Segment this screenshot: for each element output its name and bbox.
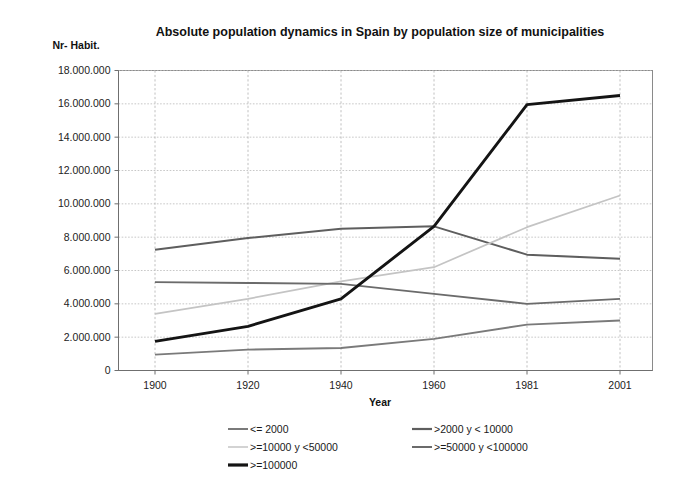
y-tick-label: 8.000.000 <box>64 231 111 243</box>
legend-label: >2000 y < 10000 <box>434 423 513 435</box>
y-tick-label: 12.000.000 <box>58 164 111 176</box>
population-dynamics-line-chart: Absolute population dynamics in Spain by… <box>0 0 682 488</box>
plot-area-frame <box>119 71 653 371</box>
y-tick-label: 0 <box>105 364 111 376</box>
legend-label: >=50000 y <100000 <box>434 441 528 453</box>
y-tick-label: 14.000.000 <box>58 131 111 143</box>
x-tick-label: 1960 <box>422 379 446 391</box>
x-tick-label: 2001 <box>608 379 632 391</box>
x-tick-label: 1920 <box>236 379 260 391</box>
y-tick-label: 2.000.000 <box>64 331 111 343</box>
x-tick-label: 1940 <box>329 379 353 391</box>
x-tick-label: 1900 <box>143 379 167 391</box>
legend-label: >=100000 <box>250 459 297 471</box>
chart-title: Absolute population dynamics in Spain by… <box>156 25 605 39</box>
y-tick-label: 6.000.000 <box>64 264 111 276</box>
y-tick-label: 10.000.000 <box>58 197 111 209</box>
y-axis-title: Nr- Habit. <box>52 39 99 51</box>
x-tick-label: 1981 <box>515 379 539 391</box>
y-tick-label: 18.000.000 <box>58 64 111 76</box>
x-axis-title: Year <box>369 396 391 408</box>
legend-label: <= 2000 <box>250 423 289 435</box>
y-tick-label: 4.000.000 <box>64 297 111 309</box>
y-tick-label: 16.000.000 <box>58 97 111 109</box>
legend-label: >=10000 y <50000 <box>250 441 338 453</box>
